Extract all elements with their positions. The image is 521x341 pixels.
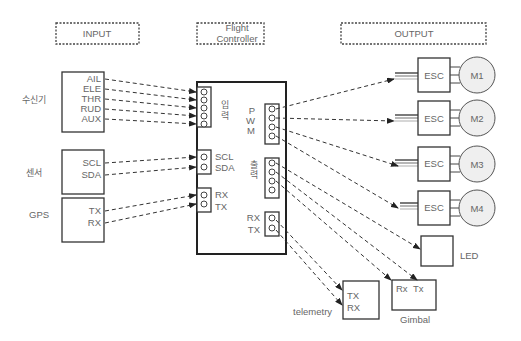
svg-text:RX: RX: [247, 212, 261, 223]
svg-text:ESC: ESC: [424, 158, 444, 169]
svg-text:Controller: Controller: [216, 33, 257, 44]
svg-text:RX: RX: [88, 217, 102, 228]
svg-text:M1: M1: [470, 70, 483, 81]
sensor-block: 센서 SCL SDA: [26, 150, 104, 194]
svg-text:SCL: SCL: [215, 151, 233, 162]
svg-text:RX: RX: [215, 189, 229, 200]
gps-label: GPS: [29, 209, 49, 220]
svg-text:AUX: AUX: [81, 113, 101, 124]
svg-text:Flight: Flight: [225, 22, 249, 33]
svg-text:출: 출: [250, 160, 258, 170]
svg-text:입: 입: [221, 99, 229, 110]
input-wires: [105, 79, 196, 223]
svg-text:INPUT: INPUT: [83, 28, 112, 39]
svg-text:TX: TX: [248, 224, 261, 235]
svg-text:ESC: ESC: [424, 70, 444, 81]
header-output: OUTPUT: [341, 23, 486, 44]
svg-text:OUTPUT: OUTPUT: [394, 28, 433, 39]
gimbal-block: Rx Tx Gimbal: [392, 280, 436, 325]
svg-text:TX: TX: [347, 290, 360, 301]
svg-text:telemetry: telemetry: [293, 306, 332, 317]
svg-text:SDA: SDA: [81, 169, 101, 180]
svg-text:SDA: SDA: [215, 162, 235, 173]
telemetry-block: TX RX telemetry: [293, 281, 379, 319]
svg-text:력: 력: [250, 169, 258, 180]
svg-text:Rx: Rx: [396, 283, 408, 294]
svg-text:Tx: Tx: [413, 283, 424, 294]
svg-text:M: M: [247, 125, 255, 136]
esc-motor-3: ESC M3: [395, 146, 495, 182]
svg-text:력: 력: [221, 110, 229, 121]
header-input: INPUT: [56, 23, 139, 44]
svg-text:ESC: ESC: [424, 113, 444, 124]
flight-controller-wiring-diagram: INPUT Flight Controller OUTPUT 수신기 AIL E…: [0, 0, 521, 341]
svg-text:ESC: ESC: [424, 202, 444, 213]
svg-text:M4: M4: [470, 203, 483, 214]
receiver-block: 수신기 AIL ELE THR RUD AUX: [22, 72, 104, 132]
led-block: LED: [421, 236, 479, 266]
esc-motor-4: ESC M4: [400, 190, 495, 226]
svg-text:RX: RX: [347, 302, 361, 313]
svg-text:M2: M2: [470, 113, 483, 124]
svg-text:TX: TX: [215, 201, 228, 212]
esc-motor-2: ESC M2: [395, 100, 495, 136]
svg-text:TX: TX: [89, 205, 102, 216]
esc-motor-1: ESC M1: [395, 57, 495, 93]
gps-block: GPS TX RX: [29, 198, 104, 242]
svg-text:Gimbal: Gimbal: [400, 314, 430, 325]
receiver-label: 수신기: [22, 95, 46, 105]
svg-text:SCL: SCL: [83, 157, 101, 168]
svg-text:M3: M3: [470, 159, 483, 170]
output-wires: [276, 79, 420, 305]
flight-controller-board: 입 력 SCL SDA RX TX P W M 출 력 RX TX: [197, 82, 286, 254]
svg-text:LED: LED: [460, 250, 479, 261]
header-flight-controller: Flight Controller: [197, 22, 264, 44]
sensor-label: 센서: [26, 168, 42, 178]
